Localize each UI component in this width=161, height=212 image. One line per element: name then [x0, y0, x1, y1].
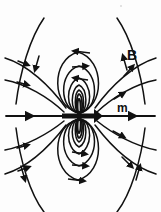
upper-loop-5-arrow [72, 66, 87, 67]
field-line-upper-left-inner [5, 80, 64, 112]
field-line-lower-right-mid [95, 125, 156, 174]
field-line-lower-right-inner [97, 121, 156, 150]
field-line-lower-left-mid [5, 125, 66, 174]
magnetic-field-label: B [127, 48, 137, 62]
lower-loop-4-arrow [72, 152, 86, 154]
upper-dipole-loops-group [58, 51, 99, 113]
field-line-upper-left-outer [16, 18, 44, 104]
dipole-field-figure: B m [0, 0, 161, 212]
upper-loop-4 [69, 78, 90, 113]
field-line-upper-left-outer-arrow [35, 56, 39, 70]
scan-artifact-speck [120, 5, 122, 7]
magnetic-moment-label: m [117, 102, 128, 114]
dipole-center-marker [77, 111, 81, 121]
lower-dipole-loops-group [58, 119, 99, 181]
field-line-lower-left-inner [5, 121, 64, 150]
upper-loop-0 [78, 99, 81, 113]
field-line-upper-right-inner-arrow [114, 93, 124, 99]
lower-loop-0 [78, 119, 81, 133]
lower-loop-4 [69, 119, 90, 154]
field-line-canvas [0, 0, 161, 212]
lower-loop-5-arrow [72, 165, 87, 166]
field-line-lower-right-outer [117, 128, 145, 212]
